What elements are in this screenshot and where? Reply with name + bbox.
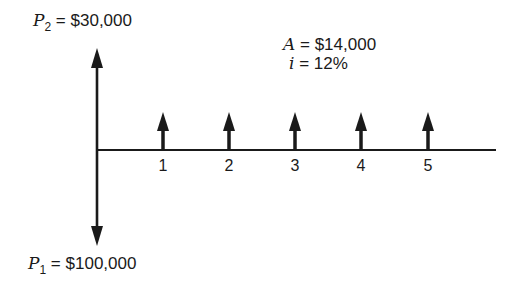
annuity-label: A = $14,000: [283, 34, 376, 55]
period-label-1: 1: [153, 157, 173, 175]
p1-symbol: P: [28, 253, 39, 273]
period-label-3: 3: [285, 157, 305, 175]
annuity-arrow-2-icon: [223, 112, 235, 150]
interest-value: = 12%: [294, 54, 347, 73]
diagram-drawing: [0, 0, 521, 287]
annuity-symbol: A: [283, 34, 295, 54]
p1-subscript: 1: [39, 263, 46, 277]
p1-label: P1 = $100,000: [28, 253, 136, 274]
period-label-5: 5: [418, 157, 438, 175]
interest-label: i = 12%: [289, 53, 348, 74]
p2-label: P2 = $30,000: [33, 10, 132, 31]
p2-subscript: 2: [44, 20, 51, 34]
annuity-arrow-3-icon: [289, 112, 301, 150]
annuity-value: = $14,000: [295, 35, 376, 54]
period-label-2: 2: [219, 157, 239, 175]
annuity-arrow-5-icon: [422, 112, 434, 150]
p1-value: = $100,000: [46, 254, 136, 273]
down-arrow-p1-icon: [91, 150, 103, 246]
p2-symbol: P: [33, 10, 44, 30]
up-arrow-p2-icon: [91, 48, 103, 150]
p2-value: = $30,000: [51, 11, 132, 30]
cash-flow-diagram: P2 = $30,000 A = $14,000 i = 12% 1 2 3 4…: [0, 0, 521, 287]
period-label-4: 4: [351, 157, 371, 175]
annuity-arrow-1-icon: [157, 112, 169, 150]
annuity-arrow-4-icon: [355, 112, 367, 150]
